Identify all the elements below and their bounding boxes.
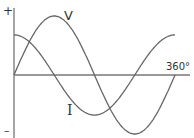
voltage-label: V	[64, 9, 73, 22]
current-label: I	[67, 103, 73, 117]
waveform-diagram	[0, 0, 194, 138]
plus-label: +	[3, 5, 13, 17]
minus-label: –	[4, 125, 10, 136]
end-angle-label: 360°	[166, 62, 190, 72]
